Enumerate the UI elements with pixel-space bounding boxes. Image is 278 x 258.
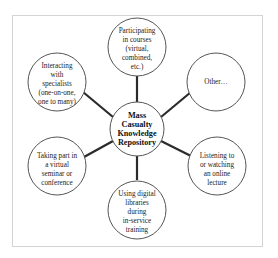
node-seminar-line-4: conference: [41, 179, 73, 187]
node-courses-line-4: combined,: [122, 54, 152, 62]
node-lecture-line-1: Listening to: [200, 152, 235, 160]
center-hub: Mass Casualty Knowledge Repository: [110, 102, 164, 156]
node-lecture-line-3: an online: [204, 170, 231, 178]
connector-other: [161, 92, 191, 117]
node-courses-line-5: etc.): [131, 63, 144, 71]
center-hub-line-2: Casualty: [122, 120, 154, 129]
node-specialists-line-2: with: [51, 71, 64, 79]
node-seminar-line-2: a virtual: [45, 161, 69, 169]
node-specialists-line-1: Interacting: [41, 62, 73, 70]
node-other: Other…: [187, 53, 245, 111]
node-seminar-line-1: Taking part in: [37, 152, 78, 160]
node-specialists: Interacting with specialists (one-on-one…: [28, 53, 86, 111]
connector-specialists: [83, 92, 113, 117]
node-libraries-line-1: Using digital: [118, 190, 155, 198]
node-seminar: Taking part in a virtual seminar or conf…: [28, 137, 86, 195]
node-libraries-line-2: libraries: [125, 199, 149, 207]
center-hub-line-4: Repository: [118, 138, 157, 147]
node-libraries-line-4: in-service: [123, 217, 151, 225]
node-lecture-line-2: or watching: [200, 161, 235, 169]
node-libraries: Using digital libraries during in-servic…: [108, 181, 166, 239]
center-hub-line-3: Knowledge: [117, 129, 156, 138]
node-courses-line-2: in courses: [123, 36, 152, 44]
connector-seminar: [84, 141, 113, 157]
node-courses-line-3: (virtual,: [126, 45, 149, 53]
node-other-line-1: Other…: [204, 78, 228, 86]
node-specialists-line-5: one to many): [38, 98, 77, 106]
node-lecture-line-4: lecture: [207, 179, 227, 187]
node-libraries-line-3: during: [128, 208, 147, 216]
node-specialists-line-3: specialists: [42, 80, 72, 88]
connector-lecture: [161, 141, 191, 156]
center-hub-line-1: Mass: [128, 111, 146, 120]
hub-spoke-diagram: Participating in courses (virtual, combi…: [0, 0, 278, 258]
node-lecture: Listening to or watching an online lectu…: [188, 137, 246, 195]
node-specialists-line-4: (one-on-one,: [39, 89, 76, 97]
node-seminar-line-3: seminar or: [42, 170, 73, 178]
node-libraries-line-5: training: [126, 226, 149, 234]
node-courses: Participating in courses (virtual, combi…: [108, 18, 166, 76]
node-courses-line-1: Participating: [119, 27, 156, 35]
